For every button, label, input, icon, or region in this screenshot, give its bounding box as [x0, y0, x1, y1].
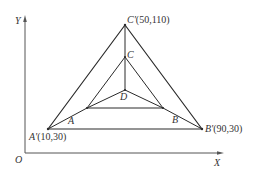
y-axis-label: Y: [15, 16, 21, 26]
y-axis-arrow-icon: [23, 15, 27, 22]
x-axis-arrow-icon: [217, 151, 224, 155]
vertex-name-Aprime: A': [29, 131, 37, 142]
vertex-coord-Aprime: (10,30): [37, 131, 66, 142]
line-Bprime-B: [163, 108, 202, 129]
vertex-dot-A: [86, 107, 88, 109]
vertex-coord-Cprime: (50,110): [136, 14, 170, 25]
vertex-dot-Aprime: [47, 128, 49, 130]
vertex-label-Aprime: A'(10,30): [29, 132, 66, 142]
origin-label: O: [15, 155, 22, 165]
vertex-label-B: B: [172, 115, 178, 125]
vertex-dot-Cprime: [124, 24, 126, 26]
vertex-coord-Bprime: (90,30): [213, 123, 242, 134]
vertex-dot-B: [162, 107, 164, 109]
line-B-D: [125, 90, 163, 108]
vertex-label-Cprime: C'(50,110): [127, 15, 170, 25]
diagram-canvas: [0, 0, 257, 177]
vertex-name-Bprime: B': [205, 123, 213, 134]
vertex-dot-C: [124, 56, 126, 58]
vertex-label-D: D: [120, 92, 127, 102]
vertex-label-A: A: [68, 116, 74, 126]
vertex-name-Cprime: C': [127, 14, 136, 25]
vertex-label-Bprime: B'(90,30): [205, 124, 242, 134]
vertex-dot-Bprime: [201, 128, 203, 130]
vertex-label-C: C: [127, 50, 134, 60]
x-axis-label: X: [214, 158, 220, 168]
